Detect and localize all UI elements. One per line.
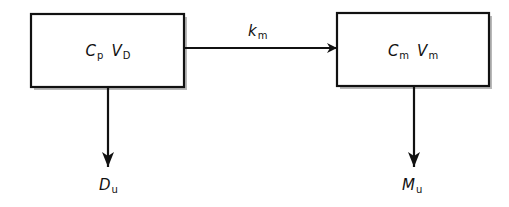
excreted-metabolite-label: Mu — [402, 178, 422, 195]
km-rate-label: km — [248, 24, 267, 41]
parent-compartment-label: Cp VD — [86, 44, 131, 61]
metabolite-concentration-term: Cm — [388, 44, 409, 61]
excreted-drug-label: Du — [99, 178, 118, 195]
parent-volume-term: VD — [111, 44, 130, 61]
metabolite-compartment-label: Cm Vm — [388, 44, 438, 61]
parent-concentration-term: Cp — [86, 44, 104, 61]
metabolite-volume-term: Vm — [417, 44, 438, 61]
